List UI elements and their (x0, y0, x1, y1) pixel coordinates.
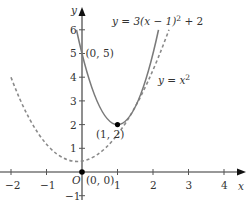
x-tick-labels: −2 −1 1 2 3 4 (5, 179, 228, 191)
x-axis-arrow-icon (237, 169, 246, 176)
x-tick-label: 3 (186, 179, 193, 191)
y-tick-label: 1 (70, 142, 77, 154)
point-marker-1-2 (115, 122, 120, 127)
x-axis-label: x (238, 180, 244, 192)
x-tick-label: 1 (114, 179, 121, 191)
curve-label-main: y = 3(x − 1) (111, 15, 176, 27)
y-tick-label: 2 (70, 119, 77, 131)
point-label-0-0: (0, 0) (86, 174, 114, 186)
axes (0, 7, 246, 200)
y-axis-arrow-icon (79, 7, 86, 16)
y-tick-label: −1 (65, 190, 80, 202)
y-tick-label: 3 (70, 95, 77, 107)
point-label-0-5: (0, 5) (86, 47, 114, 59)
x-tick-label: 4 (221, 179, 228, 191)
y-tick-label: 4 (70, 71, 77, 83)
point-label-1-2: (1, 2) (96, 128, 124, 140)
y-tick-label: 5 (70, 47, 77, 59)
graph-plot: −2 −1 1 2 3 4 −1 1 2 3 4 5 6 y x O (0, 5… (0, 0, 249, 202)
curve-y-equals-3-x-minus-1-squared-plus-2 (77, 30, 159, 125)
curve-label-y-equals-3-x-minus-1-squared-plus-2: y = 3(x − 1)2 + 2 (111, 14, 203, 27)
point-marker-0-0 (79, 169, 85, 175)
curve-label-sup: 2 (185, 73, 190, 82)
origin-label: O (72, 174, 81, 186)
x-tick-label: −2 (5, 179, 20, 191)
y-axis-label: y (70, 4, 78, 16)
x-tick-label: −1 (40, 179, 55, 191)
curve-label-main: y = x (157, 74, 185, 86)
curve-label-y-equals-x-squared: y = x2 (157, 73, 190, 86)
curve-label-tail: + 2 (181, 15, 203, 27)
x-tick-label: 2 (150, 179, 157, 191)
y-tick-label: 6 (70, 24, 77, 36)
